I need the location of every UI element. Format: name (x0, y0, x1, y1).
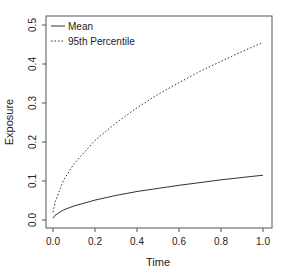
x-tick-label: 1.0 (256, 236, 270, 247)
series-lines (53, 43, 263, 219)
x-axis-label: Time (146, 256, 170, 268)
mean-line (53, 175, 263, 218)
plot-frame (46, 16, 272, 228)
y-tick-label: 0.5 (27, 18, 38, 32)
y-tick-label: 0.2 (27, 135, 38, 149)
y-tick-label: 0.1 (27, 174, 38, 188)
y-axis-label: Exposure (3, 99, 15, 145)
x-axis: 0.00.20.40.60.81.0 (46, 228, 270, 247)
legend: Mean 95th Percentile (51, 21, 135, 47)
y-tick-label: 0.0 (27, 213, 38, 227)
x-tick-label: 0.0 (46, 236, 60, 247)
x-tick-label: 0.6 (172, 236, 186, 247)
x-tick-label: 0.4 (130, 236, 144, 247)
x-tick-label: 0.8 (214, 236, 228, 247)
percentile-95-line (53, 43, 263, 213)
x-tick-label: 0.2 (88, 236, 102, 247)
legend-label-mean: Mean (68, 21, 93, 32)
chart: 0.00.10.20.30.40.5 0.00.20.40.60.81.0 Ti… (0, 0, 288, 277)
y-axis: 0.00.10.20.30.40.5 (27, 18, 46, 227)
legend-label-95th: 95th Percentile (68, 36, 135, 47)
y-tick-label: 0.3 (27, 96, 38, 110)
y-tick-label: 0.4 (27, 57, 38, 71)
